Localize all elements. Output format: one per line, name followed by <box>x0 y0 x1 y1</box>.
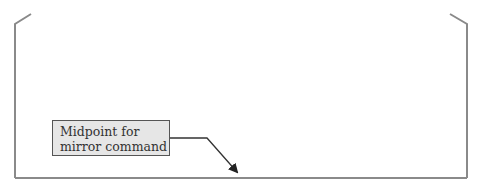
left-edge <box>15 14 31 178</box>
profile-outline-drawing <box>0 0 481 190</box>
callout-line-2: mirror command <box>60 139 169 154</box>
right-edge <box>450 14 467 178</box>
leader-line-arrow <box>170 138 237 172</box>
midpoint-callout-box: Midpoint for mirror command <box>52 120 170 156</box>
callout-line-1: Midpoint for <box>60 124 169 139</box>
